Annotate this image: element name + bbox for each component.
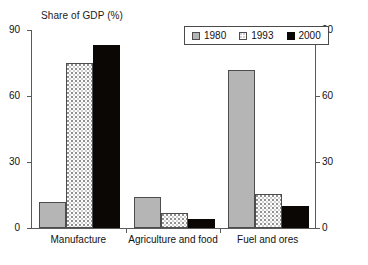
bar[interactable] <box>66 63 93 228</box>
bar[interactable] <box>188 219 215 228</box>
x-axis-category-label: Manufacture <box>31 234 126 246</box>
x-axis-group-separator-tick <box>126 228 127 233</box>
bars-layer <box>32 30 316 228</box>
legend-swatch-icon-1980 <box>192 32 200 40</box>
x-axis-category-label: Agriculture and food <box>126 234 221 246</box>
bar[interactable] <box>282 206 309 228</box>
bar[interactable] <box>39 202 66 228</box>
y-axis-left-tick-30: 30 <box>9 157 20 167</box>
legend-item-1980[interactable]: 1980 <box>192 31 226 41</box>
x-axis-group-separator-tick <box>220 228 221 233</box>
legend-item-1993[interactable]: 1993 <box>239 31 273 41</box>
y-axis-left-tick-90: 90 <box>9 25 20 35</box>
bar[interactable] <box>134 197 161 228</box>
y-axis-right-tick-0: 0 <box>322 223 328 233</box>
y-axis-right-tickmark-0 <box>316 228 320 229</box>
bar[interactable] <box>255 194 282 228</box>
y-axis-right-labels: 90 60 30 0 <box>322 30 352 228</box>
legend-label-1993: 1993 <box>251 31 273 41</box>
y-axis-right-tickmark-60 <box>316 96 320 97</box>
y-axis-left-labels: 90 60 30 0 <box>0 30 26 228</box>
legend-swatch-icon-1993 <box>239 32 247 40</box>
legend-item-2000[interactable]: 2000 <box>287 31 321 41</box>
legend-swatch-icon-2000 <box>287 32 295 40</box>
y-axis-left-tick-60: 60 <box>9 91 20 101</box>
y-axis-left-tickmark-30 <box>27 162 31 163</box>
bar[interactable] <box>93 45 120 228</box>
y-axis-right-tickmark-30 <box>316 162 320 163</box>
x-axis-line <box>31 228 316 229</box>
bar[interactable] <box>161 213 188 228</box>
y-axis-left-tick-0: 0 <box>14 223 20 233</box>
bar[interactable] <box>228 70 255 228</box>
y-axis-right-tick-30: 30 <box>322 157 333 167</box>
legend-label-1980: 1980 <box>204 31 226 41</box>
chart-title: Share of GDP (%) <box>41 10 123 22</box>
legend: 1980 1993 2000 <box>184 26 329 45</box>
bar-group-1 <box>39 30 120 228</box>
x-axis-category-label: Fuel and ores <box>220 234 315 246</box>
y-axis-left-tickmark-90 <box>27 30 31 31</box>
y-axis-right-tick-60: 60 <box>322 91 333 101</box>
plot-area <box>31 30 316 228</box>
bar-group-3 <box>228 30 309 228</box>
y-axis-left-tickmark-60 <box>27 96 31 97</box>
legend-label-2000: 2000 <box>299 31 321 41</box>
x-axis-category-labels: ManufactureAgriculture and foodFuel and … <box>31 234 316 254</box>
bar-group-2 <box>134 30 215 228</box>
y-axis-left-tickmark-0 <box>27 228 31 229</box>
bar-chart: Share of GDP (%) 90 60 30 0 90 60 30 0 M… <box>0 0 368 265</box>
